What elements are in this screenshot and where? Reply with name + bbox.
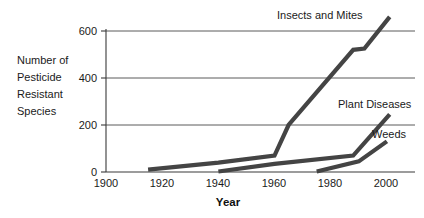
y-tick-labels: 600 400 200 0 bbox=[79, 25, 97, 178]
pesticide-resistance-line-chart: 600 400 200 0 1900 1920 1940 1960 1980 2… bbox=[0, 0, 424, 218]
y-tick-label-600: 600 bbox=[79, 25, 97, 37]
x-tick-labels: 1900 1920 1940 1960 1980 2000 bbox=[94, 177, 398, 189]
y-tick-label-200: 200 bbox=[79, 119, 97, 131]
y-axis-title-line-3: Resistant bbox=[17, 88, 63, 100]
x-tick-label-1920: 1920 bbox=[150, 177, 174, 189]
x-tick-label-1960: 1960 bbox=[262, 177, 286, 189]
data-series-group bbox=[148, 17, 390, 172]
chart-canvas: 600 400 200 0 1900 1920 1940 1960 1980 2… bbox=[0, 0, 424, 218]
series-label-plant-diseases: Plant Diseases bbox=[338, 98, 412, 110]
series-label-weeds: Weeds bbox=[372, 128, 407, 140]
series-label-insects-and-mites: Insects and Mites bbox=[277, 9, 363, 21]
x-tick-label-2000: 2000 bbox=[374, 177, 398, 189]
series-line-plant-diseases bbox=[218, 114, 389, 171]
y-axis-title-line-4: Species bbox=[17, 105, 57, 117]
x-axis-title: Year bbox=[216, 196, 241, 208]
series-annotations: Insects and Mites Plant Diseases Weeds bbox=[277, 9, 412, 140]
x-tick-label-1940: 1940 bbox=[206, 177, 230, 189]
y-axis-title: Number of Pesticide Resistant Species bbox=[17, 54, 69, 117]
x-tick-label-1980: 1980 bbox=[318, 177, 342, 189]
x-tick-label-1900: 1900 bbox=[94, 177, 118, 189]
y-tick-marks bbox=[101, 31, 106, 172]
y-axis-title-line-1: Number of bbox=[17, 54, 69, 66]
y-tick-label-400: 400 bbox=[79, 72, 97, 84]
y-axis-title-line-2: Pesticide bbox=[17, 71, 62, 83]
series-line-insects-and-mites bbox=[148, 17, 390, 170]
